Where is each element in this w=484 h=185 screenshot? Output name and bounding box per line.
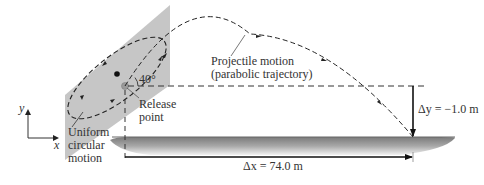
projectile-leader-line	[231, 35, 245, 56]
coordinate-axes	[28, 112, 56, 138]
x-axis-label: x	[54, 139, 59, 151]
uniform-label-line3: motion	[68, 152, 102, 164]
projectile-label-line1: Projectile motion	[211, 55, 294, 67]
uniform-label-line2: circular	[68, 139, 105, 151]
trajectory-arrow-icon	[321, 58, 327, 61]
ball	[114, 71, 120, 77]
release-label-line2: point	[139, 111, 164, 123]
angle-label: 40°	[139, 73, 156, 85]
delta-x-label: Δx = 74.0 m	[243, 160, 303, 172]
uniform-label-line1: Uniform	[68, 126, 109, 138]
delta-y-label: Δy = −1.0 m	[418, 103, 479, 115]
ground	[110, 137, 455, 155]
release-label-line1: Release	[139, 98, 176, 110]
y-axis-label: y	[19, 102, 24, 114]
projectile-label-line2: (parabolic trajectory)	[211, 68, 313, 80]
